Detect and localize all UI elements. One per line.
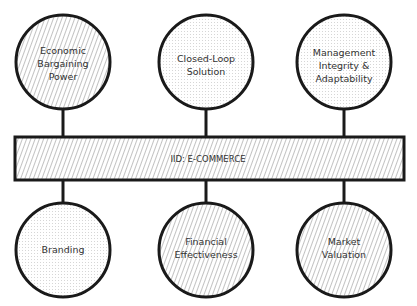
node-label-line: Valuation bbox=[322, 249, 366, 260]
node-label-line: Integrity & bbox=[319, 60, 370, 71]
node-label-line: Financial bbox=[185, 236, 227, 247]
node-label-line: Economic bbox=[40, 45, 86, 56]
node-market-valuation: Market Valuation bbox=[297, 203, 391, 297]
node-label-line: Management bbox=[313, 47, 376, 58]
node-label-line: Market bbox=[328, 236, 361, 247]
node-label-line: Branding bbox=[42, 244, 85, 255]
node-economic-bargaining-power: Economic Bargaining Power bbox=[16, 15, 110, 109]
node-management-integrity-adaptability: Management Integrity & Adaptability bbox=[297, 15, 391, 109]
node-label-line: Power bbox=[49, 71, 78, 82]
node-financial-effectiveness: Financial Effectiveness bbox=[159, 203, 253, 297]
node-label-line: Solution bbox=[187, 66, 226, 77]
node-branding: Branding bbox=[16, 203, 110, 297]
node-label-line: Bargaining bbox=[37, 58, 88, 69]
diagram-canvas: IID: E-COMMERCE Economic Bargaining Powe… bbox=[0, 0, 417, 306]
node-label-line: Effectiveness bbox=[174, 249, 237, 260]
node-label-line: Adaptability bbox=[315, 73, 372, 84]
center-bar: IID: E-COMMERCE bbox=[15, 137, 404, 180]
node-label-line: Closed-Loop bbox=[177, 53, 235, 64]
node-closed-loop-solution: Closed-Loop Solution bbox=[159, 15, 253, 109]
center-bar-label: IID: E-COMMERCE bbox=[170, 154, 245, 164]
